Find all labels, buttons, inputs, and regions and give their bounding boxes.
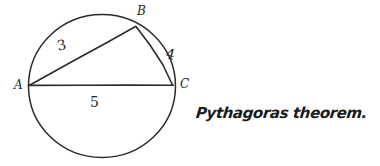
annotation-pythagoras-theorem: Pythagoras theorem. xyxy=(195,106,368,121)
vertex-label-a: A xyxy=(14,79,23,91)
vertex-label-b: B xyxy=(137,5,146,17)
geometry-drawing xyxy=(0,0,380,166)
segment-ab xyxy=(30,27,136,86)
geometry-figure: A B C 3 4 5 Pythagoras theorem. xyxy=(0,0,380,166)
side-label-ac: 5 xyxy=(90,95,99,109)
vertex-label-c: C xyxy=(180,78,189,90)
